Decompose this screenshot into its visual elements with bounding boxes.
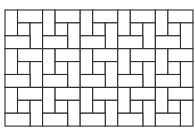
horizontal-brick-tile xyxy=(130,10,155,23)
horizontal-brick-tile xyxy=(80,36,105,49)
vertical-brick-tile xyxy=(43,49,56,75)
square-tile xyxy=(93,100,106,113)
horizontal-brick-tile xyxy=(43,36,68,49)
vertical-brick-tile xyxy=(5,10,18,36)
horizontal-brick-tile xyxy=(155,36,180,49)
horizontal-brick-tile xyxy=(43,75,68,88)
square-tile xyxy=(130,62,143,75)
square-tile xyxy=(18,62,31,75)
vertical-brick-tile xyxy=(43,10,56,36)
vertical-brick-tile xyxy=(155,10,168,36)
vertical-brick-tile xyxy=(68,62,81,88)
vertical-brick-tile xyxy=(80,87,93,113)
vertical-brick-tile xyxy=(5,49,18,75)
horizontal-brick-tile xyxy=(168,10,193,23)
vertical-brick-tile xyxy=(105,100,118,126)
square-tile xyxy=(55,100,68,113)
vertical-brick-tile xyxy=(43,87,56,113)
vertical-brick-tile xyxy=(118,10,131,36)
horizontal-brick-tile xyxy=(168,49,193,62)
horizontal-brick-tile xyxy=(93,87,118,100)
vertical-brick-tile xyxy=(80,10,93,36)
vertical-brick-tile xyxy=(5,87,18,113)
vertical-brick-tile xyxy=(80,49,93,75)
horizontal-brick-tile xyxy=(55,87,80,100)
square-tile xyxy=(130,100,143,113)
vertical-brick-tile xyxy=(180,23,193,49)
square-tile xyxy=(18,23,31,36)
horizontal-brick-tile xyxy=(118,113,143,126)
horizontal-brick-tile xyxy=(43,113,68,126)
square-tile xyxy=(168,62,181,75)
vertical-brick-tile xyxy=(143,62,156,88)
horizontal-brick-tile xyxy=(80,113,105,126)
square-tile xyxy=(130,23,143,36)
horizontal-brick-tile xyxy=(18,87,43,100)
horizontal-brick-tile xyxy=(5,113,30,126)
horizontal-brick-tile xyxy=(18,10,43,23)
vertical-brick-tile xyxy=(105,23,118,49)
vertical-brick-tile xyxy=(155,49,168,75)
horizontal-brick-tile xyxy=(55,49,80,62)
vertical-brick-tile xyxy=(180,100,193,126)
horizontal-brick-tile xyxy=(80,75,105,88)
horizontal-brick-tile xyxy=(155,113,180,126)
square-tile xyxy=(168,23,181,36)
horizontal-brick-tile xyxy=(130,87,155,100)
horizontal-brick-tile xyxy=(118,75,143,88)
vertical-brick-tile xyxy=(30,62,43,88)
horizontal-brick-tile xyxy=(93,10,118,23)
vertical-brick-tile xyxy=(68,100,81,126)
vertical-brick-tile xyxy=(118,87,131,113)
vertical-brick-tile xyxy=(30,100,43,126)
horizontal-brick-tile xyxy=(168,87,193,100)
vertical-brick-tile xyxy=(118,49,131,75)
square-tile xyxy=(93,23,106,36)
horizontal-brick-tile xyxy=(118,36,143,49)
vertical-brick-tile xyxy=(143,100,156,126)
horizontal-brick-tile xyxy=(5,75,30,88)
vertical-brick-tile xyxy=(30,23,43,49)
horizontal-brick-tile xyxy=(5,36,30,49)
square-tile xyxy=(168,100,181,113)
square-tile xyxy=(93,62,106,75)
horizontal-brick-tile xyxy=(155,75,180,88)
vertical-brick-tile xyxy=(105,62,118,88)
vertical-brick-tile xyxy=(180,62,193,88)
vertical-brick-tile xyxy=(155,87,168,113)
tile-group xyxy=(5,10,193,126)
horizontal-brick-tile xyxy=(93,49,118,62)
horizontal-brick-tile xyxy=(55,10,80,23)
vertical-brick-tile xyxy=(143,23,156,49)
pinwheel-tiling-diagram xyxy=(0,0,195,132)
vertical-brick-tile xyxy=(68,23,81,49)
square-tile xyxy=(55,62,68,75)
horizontal-brick-tile xyxy=(130,49,155,62)
horizontal-brick-tile xyxy=(18,49,43,62)
square-tile xyxy=(18,100,31,113)
square-tile xyxy=(55,23,68,36)
